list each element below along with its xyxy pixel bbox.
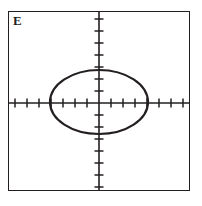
- graph-screenshot: E: [0, 0, 202, 206]
- graph-canvas: [0, 0, 202, 206]
